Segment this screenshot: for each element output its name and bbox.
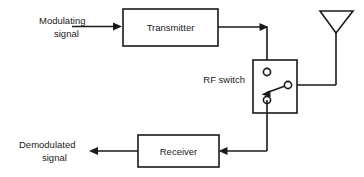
demodulated-output-connector (89, 147, 138, 155)
rf-switch-label: RF switch (203, 74, 245, 85)
demodulated-output-arrowhead (89, 147, 98, 155)
switch-terminal-transmit[interactable] (263, 68, 270, 75)
modulating-input-arrowhead (113, 23, 122, 31)
switch-terminal-antenna[interactable] (284, 81, 291, 88)
modulating-signal-label-line2: signal (54, 28, 79, 39)
demodulated-signal-label-line1: Demodulated (19, 139, 76, 150)
diagram-canvas: Modulating signal Transmitter RF switch … (0, 0, 364, 177)
transmitter-label: Transmitter (147, 22, 195, 33)
block-diagram: Modulating signal Transmitter RF switch … (0, 0, 364, 177)
demodulated-signal-label-line2: signal (42, 152, 67, 163)
modulating-signal-label-line1: Modulating (39, 15, 85, 26)
receiver-input-arrowhead (219, 147, 228, 155)
antenna-icon (320, 11, 353, 33)
receiver-label: Receiver (160, 146, 198, 157)
